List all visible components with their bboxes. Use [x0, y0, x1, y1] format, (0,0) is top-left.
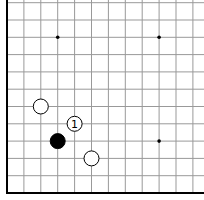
star-point-icon	[157, 36, 161, 40]
star-point-icon	[157, 139, 161, 143]
go-board: 1	[0, 0, 204, 200]
board-edges	[6, 0, 204, 194]
grid-lines	[7, 0, 204, 193]
move-number-label: 1	[71, 118, 78, 131]
white-stone	[84, 151, 99, 166]
star-point-icon	[56, 36, 60, 40]
stones: 1	[33, 99, 99, 166]
white-stone: 1	[67, 116, 82, 131]
white-stone	[33, 99, 48, 114]
black-stone	[50, 134, 65, 149]
